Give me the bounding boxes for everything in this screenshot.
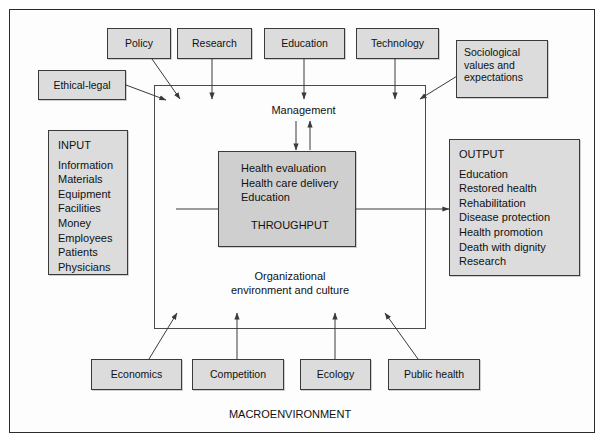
node-economics[interactable]: Economics	[91, 359, 182, 390]
throughput-item: Health evaluation	[241, 161, 355, 176]
output-item: Education	[459, 167, 570, 182]
node-competition-label: Competition	[210, 368, 266, 381]
node-research-label: Research	[192, 37, 237, 50]
node-ecology[interactable]: Ecology	[300, 359, 371, 390]
node-ecology-label: Ecology	[317, 368, 354, 381]
input-item: Materials	[58, 172, 118, 187]
sociological-line-1: Sociological	[464, 46, 540, 59]
organizational-environment-label: Organizational environment and culture	[200, 270, 380, 297]
node-economics-label: Economics	[111, 368, 162, 381]
node-education-top[interactable]: Education	[264, 28, 345, 59]
org-env-line-1: Organizational	[200, 270, 380, 284]
node-research[interactable]: Research	[177, 28, 252, 59]
diagram-canvas: Policy Research Education Technology Eth…	[0, 0, 608, 448]
node-policy[interactable]: Policy	[107, 28, 171, 59]
node-throughput[interactable]: Health evaluation Health care delivery E…	[218, 151, 356, 247]
input-header: INPUT	[58, 138, 118, 153]
macroenvironment-label: MACROENVIRONMENT	[190, 408, 390, 422]
node-technology[interactable]: Technology	[356, 28, 439, 59]
input-item: Patients	[58, 245, 118, 260]
node-technology-label: Technology	[371, 37, 424, 50]
sociological-line-3: expectations	[464, 71, 540, 84]
output-header: OUTPUT	[459, 147, 570, 162]
input-item: Facilities	[58, 201, 118, 216]
node-competition[interactable]: Competition	[192, 359, 284, 390]
node-ethical-legal-label: Ethical-legal	[53, 79, 110, 92]
throughput-item: Education	[241, 190, 355, 205]
throughput-label: THROUGHPUT	[251, 218, 355, 233]
node-public-health[interactable]: Public health	[388, 359, 480, 390]
output-item: Research	[459, 254, 570, 269]
input-item: Money	[58, 216, 118, 231]
node-ethical-legal[interactable]: Ethical-legal	[38, 70, 126, 100]
node-public-health-label: Public health	[404, 368, 464, 381]
output-item: Rehabilitation	[459, 196, 570, 211]
input-item: Employees	[58, 231, 118, 246]
output-item: Restored health	[459, 181, 570, 196]
management-label: Management	[236, 104, 371, 118]
throughput-item: Health care delivery	[241, 176, 355, 191]
node-input[interactable]: INPUT Information Materials Equipment Fa…	[48, 130, 128, 275]
input-item: Physicians	[58, 260, 118, 275]
org-env-line-2: environment and culture	[200, 284, 380, 298]
input-item: Equipment	[58, 187, 118, 202]
output-item: Health promotion	[459, 225, 570, 240]
node-output[interactable]: OUTPUT Education Restored health Rehabil…	[449, 139, 580, 276]
output-item: Death with dignity	[459, 240, 570, 255]
input-item: Information	[58, 158, 118, 173]
sociological-line-2: values and	[464, 59, 540, 72]
output-item: Disease protection	[459, 210, 570, 225]
node-sociological-values[interactable]: Sociological values and expectations	[456, 40, 548, 98]
node-education-top-label: Education	[281, 37, 328, 50]
node-policy-label: Policy	[125, 37, 153, 50]
